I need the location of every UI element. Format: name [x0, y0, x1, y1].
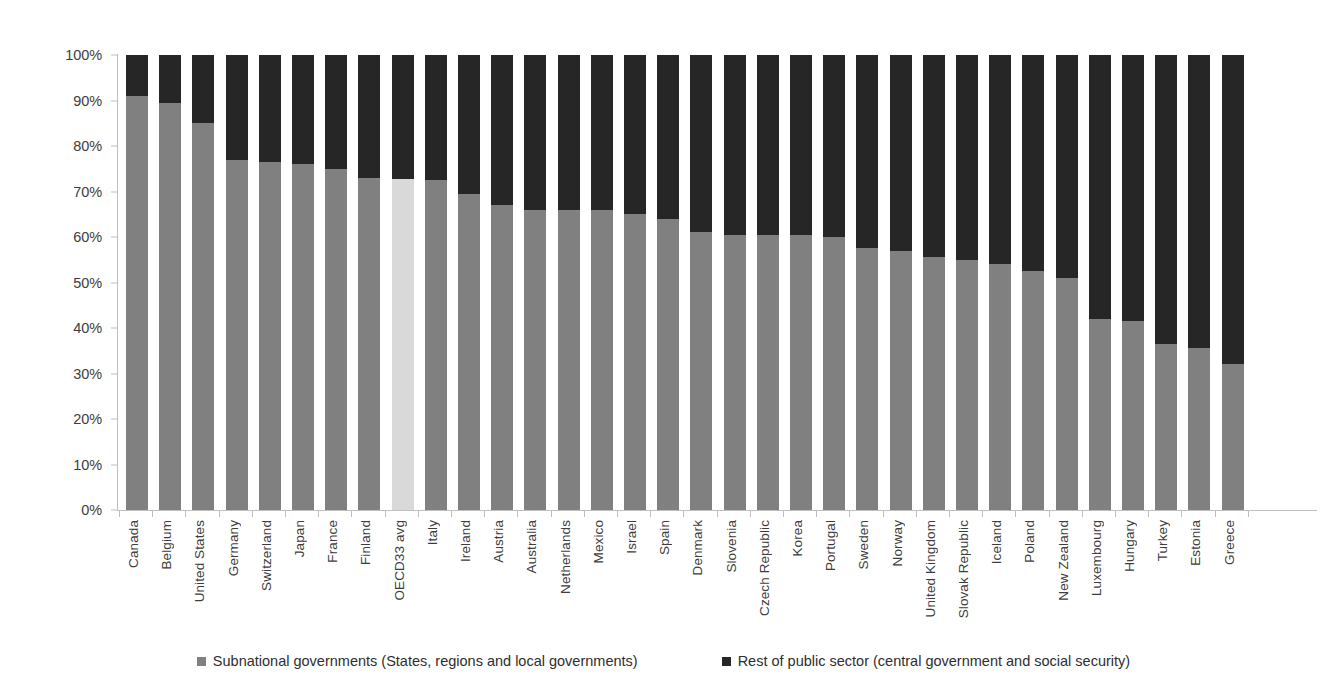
bar-segment-rest-of-public-sector[interactable]	[823, 55, 845, 237]
bar-group[interactable]	[591, 55, 613, 510]
bar-segment-rest-of-public-sector[interactable]	[192, 55, 214, 123]
bar-segment-subnational[interactable]	[292, 164, 314, 510]
bar-group[interactable]	[823, 55, 845, 510]
bar-group[interactable]	[1188, 55, 1210, 510]
bar-segment-subnational[interactable]	[923, 257, 945, 510]
bar-group[interactable]	[491, 55, 513, 510]
bar-segment-rest-of-public-sector[interactable]	[790, 55, 812, 235]
bar-segment-rest-of-public-sector[interactable]	[558, 55, 580, 210]
bar-group[interactable]	[790, 55, 812, 510]
bar-segment-subnational[interactable]	[259, 162, 281, 510]
bar-segment-subnational[interactable]	[1089, 319, 1111, 510]
bar-segment-rest-of-public-sector[interactable]	[1222, 55, 1244, 364]
bar-segment-subnational[interactable]	[790, 235, 812, 510]
bar-segment-rest-of-public-sector[interactable]	[956, 55, 978, 260]
bar-segment-rest-of-public-sector[interactable]	[491, 55, 513, 205]
bar-segment-subnational[interactable]	[159, 103, 181, 510]
bar-group[interactable]	[524, 55, 546, 510]
bar-segment-subnational[interactable]	[1222, 364, 1244, 510]
bar-group[interactable]	[890, 55, 912, 510]
bar-segment-subnational[interactable]	[1056, 278, 1078, 510]
bar-group[interactable]	[657, 55, 679, 510]
bar-segment-subnational[interactable]	[1188, 348, 1210, 510]
legend-item[interactable]: Subnational governments (States, regions…	[197, 653, 638, 669]
bar-group[interactable]	[1056, 55, 1078, 510]
bar-segment-subnational[interactable]	[192, 123, 214, 510]
bar-segment-subnational[interactable]	[491, 205, 513, 510]
bar-segment-subnational[interactable]	[458, 194, 480, 510]
bar-segment-rest-of-public-sector[interactable]	[425, 55, 447, 180]
bar-group[interactable]	[259, 55, 281, 510]
bar-segment-rest-of-public-sector[interactable]	[1089, 55, 1111, 319]
bar-segment-subnational[interactable]	[657, 219, 679, 510]
bar-group[interactable]	[292, 55, 314, 510]
bar-group[interactable]	[1222, 55, 1244, 510]
bar-segment-subnational[interactable]	[690, 232, 712, 510]
bar-group[interactable]	[126, 55, 148, 510]
bar-segment-subnational[interactable]	[591, 210, 613, 510]
bar-segment-subnational[interactable]	[823, 237, 845, 510]
bar-segment-subnational[interactable]	[358, 178, 380, 510]
bar-segment-subnational[interactable]	[1022, 271, 1044, 510]
bar-segment-rest-of-public-sector[interactable]	[890, 55, 912, 251]
legend-item[interactable]: Rest of public sector (central governmen…	[722, 653, 1130, 669]
bar-group[interactable]	[624, 55, 646, 510]
bar-segment-subnational[interactable]	[425, 180, 447, 510]
bar-segment-rest-of-public-sector[interactable]	[1155, 55, 1177, 344]
bar-group[interactable]	[923, 55, 945, 510]
bar-segment-rest-of-public-sector[interactable]	[1056, 55, 1078, 278]
bar-segment-subnational[interactable]	[524, 210, 546, 510]
bar-segment-rest-of-public-sector[interactable]	[159, 55, 181, 103]
bar-group[interactable]	[1089, 55, 1111, 510]
bar-segment-subnational[interactable]	[989, 264, 1011, 510]
bar-segment-subnational[interactable]	[956, 260, 978, 510]
bar-group[interactable]	[425, 55, 447, 510]
bar-segment-rest-of-public-sector[interactable]	[757, 55, 779, 235]
bar-group[interactable]	[558, 55, 580, 510]
bar-group[interactable]	[724, 55, 746, 510]
bar-group[interactable]	[1122, 55, 1144, 510]
bar-segment-rest-of-public-sector[interactable]	[690, 55, 712, 232]
bar-segment-rest-of-public-sector[interactable]	[591, 55, 613, 210]
bar-segment-rest-of-public-sector[interactable]	[458, 55, 480, 194]
bar-group[interactable]	[1022, 55, 1044, 510]
bar-group[interactable]	[690, 55, 712, 510]
bar-group[interactable]	[956, 55, 978, 510]
bar-segment-subnational[interactable]	[126, 96, 148, 510]
bar-segment-rest-of-public-sector[interactable]	[358, 55, 380, 178]
bar-group[interactable]	[226, 55, 248, 510]
bar-segment-rest-of-public-sector[interactable]	[292, 55, 314, 164]
bar-segment-subnational[interactable]	[724, 235, 746, 510]
bar-segment-rest-of-public-sector[interactable]	[392, 55, 414, 179]
bar-segment-subnational[interactable]	[757, 235, 779, 510]
bar-group[interactable]	[325, 55, 347, 510]
bar-segment-subnational[interactable]	[392, 179, 414, 510]
bar-group[interactable]	[192, 55, 214, 510]
bar-segment-rest-of-public-sector[interactable]	[624, 55, 646, 214]
bar-segment-subnational[interactable]	[890, 251, 912, 510]
bar-group[interactable]	[358, 55, 380, 510]
bar-group[interactable]	[1155, 55, 1177, 510]
bar-segment-rest-of-public-sector[interactable]	[989, 55, 1011, 264]
bar-segment-rest-of-public-sector[interactable]	[657, 55, 679, 219]
bar-group[interactable]	[392, 55, 414, 510]
bar-segment-rest-of-public-sector[interactable]	[259, 55, 281, 162]
bar-segment-rest-of-public-sector[interactable]	[226, 55, 248, 160]
bar-segment-subnational[interactable]	[624, 214, 646, 510]
bar-segment-rest-of-public-sector[interactable]	[524, 55, 546, 210]
bar-group[interactable]	[757, 55, 779, 510]
bar-group[interactable]	[856, 55, 878, 510]
bar-segment-rest-of-public-sector[interactable]	[856, 55, 878, 248]
bar-segment-rest-of-public-sector[interactable]	[1188, 55, 1210, 348]
bar-group[interactable]	[458, 55, 480, 510]
bar-segment-subnational[interactable]	[1155, 344, 1177, 510]
bar-segment-rest-of-public-sector[interactable]	[325, 55, 347, 169]
bar-segment-subnational[interactable]	[226, 160, 248, 510]
bar-group[interactable]	[989, 55, 1011, 510]
bar-segment-rest-of-public-sector[interactable]	[1022, 55, 1044, 271]
bar-segment-subnational[interactable]	[558, 210, 580, 510]
bar-segment-subnational[interactable]	[856, 248, 878, 510]
bar-segment-subnational[interactable]	[1122, 321, 1144, 510]
bar-segment-subnational[interactable]	[325, 169, 347, 510]
bar-segment-rest-of-public-sector[interactable]	[923, 55, 945, 257]
